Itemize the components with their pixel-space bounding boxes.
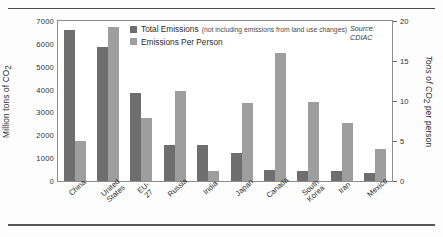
- y-axis-left: 01000200030004000500060007000: [20, 20, 57, 182]
- bar-total-emissions[interactable]: [264, 170, 275, 181]
- x-axis-tick: Japan: [225, 183, 258, 231]
- legend-label-total-emissions: Total Emissions: [141, 24, 199, 34]
- y-axis-right-tick-mark: [393, 101, 397, 102]
- bar-total-emissions[interactable]: [197, 145, 208, 181]
- bar-emissions-per-person[interactable]: [275, 53, 286, 181]
- bar-total-emissions[interactable]: [331, 171, 342, 181]
- bar-emissions-per-person[interactable]: [375, 149, 386, 181]
- y-axis-right-tick-label: 10: [400, 97, 408, 106]
- x-axis-tick: EU-27: [125, 183, 158, 231]
- figure-container: Million tons of CO2 Tons of CO2 per pers…: [0, 0, 443, 237]
- y-axis-left-tick-label: 7000: [36, 17, 54, 26]
- legend-item-total-emissions[interactable]: Total Emissions (not including emissions…: [130, 24, 347, 34]
- x-axis-tick: Mexico: [359, 183, 392, 231]
- bar-emissions-per-person[interactable]: [75, 141, 86, 181]
- y-axis-right-tick-label: 0: [400, 177, 404, 186]
- bar-total-emissions[interactable]: [64, 30, 75, 181]
- bar-total-emissions[interactable]: [364, 173, 375, 181]
- bar-total-emissions[interactable]: [231, 153, 242, 181]
- bar-emissions-per-person[interactable]: [242, 103, 253, 181]
- bar-total-emissions[interactable]: [164, 145, 175, 181]
- chart-legend: Total Emissions (not including emissions…: [130, 24, 347, 49]
- y-axis-right-tick-label: 5: [400, 137, 404, 146]
- legend-swatch-total-emissions: [130, 26, 137, 33]
- y-axis-right-tick-label: 20: [400, 17, 408, 26]
- bar-total-emissions[interactable]: [297, 171, 308, 181]
- y-axis-left-title-subscript: 2: [3, 65, 12, 70]
- legend-note-total-emissions: (not including emissions from land use c…: [202, 26, 347, 33]
- y-axis-right-tick-mark: [393, 61, 397, 62]
- bar-emissions-per-person[interactable]: [141, 118, 152, 181]
- y-axis-right-tick-mark: [393, 141, 397, 142]
- x-axis-tick: Russia: [158, 183, 191, 231]
- top-divider-rule: [8, 8, 435, 9]
- y-axis-left-tick-label: 3000: [36, 108, 54, 117]
- y-axis-left-tick-label: 2000: [36, 131, 54, 140]
- bar-emissions-per-person[interactable]: [308, 102, 319, 181]
- x-axis-tick: Iran: [325, 183, 358, 231]
- x-axis-tick-label: Iran: [337, 181, 352, 196]
- source-credit: Source: CDIAC: [350, 24, 375, 42]
- bar-emissions-per-person[interactable]: [108, 27, 119, 181]
- x-axis-tick: China: [58, 183, 91, 231]
- bar-group: [364, 21, 386, 181]
- y-axis-left-tick-label: 5000: [36, 62, 54, 71]
- y-axis-left-title: Million tons of CO2: [0, 20, 16, 182]
- x-axis-tick: India: [192, 183, 225, 231]
- bar-emissions-per-person[interactable]: [342, 123, 353, 181]
- x-axis-tick-label: South Korea: [301, 178, 327, 204]
- x-axis-tick-label: EU-27: [135, 179, 159, 203]
- legend-item-emissions-per-person[interactable]: Emissions Per Person: [130, 37, 347, 47]
- x-axis-labels: ChinaUnited StatesEU-27RussiaIndiaJapanC…: [58, 183, 392, 231]
- bar-total-emissions[interactable]: [130, 93, 141, 181]
- y-axis-right: 05101520: [393, 20, 427, 182]
- legend-label-emissions-per-person: Emissions Per Person: [141, 37, 223, 47]
- legend-swatch-emissions-per-person: [130, 38, 137, 45]
- y-axis-left-tick-label: 4000: [36, 85, 54, 94]
- x-axis-tick-label: India: [202, 179, 220, 196]
- bar-group: [97, 21, 119, 181]
- x-axis-tick: Canada: [258, 183, 291, 231]
- bar-group: [64, 21, 86, 181]
- y-axis-left-tick-label: 6000: [36, 39, 54, 48]
- bar-total-emissions[interactable]: [97, 47, 108, 181]
- y-axis-right-tick-label: 15: [400, 57, 408, 66]
- y-axis-left-tick-label: 1000: [36, 154, 54, 163]
- y-axis-right-tick-mark: [393, 21, 397, 22]
- y-axis-left-tick-label: 0: [50, 177, 54, 186]
- bar-emissions-per-person[interactable]: [175, 91, 186, 181]
- y-axis-left-title-text: Million tons of CO: [2, 69, 11, 137]
- y-axis-right-tick-mark: [393, 181, 397, 182]
- x-axis-tick: South Korea: [292, 183, 325, 231]
- x-axis-tick: United States: [91, 183, 124, 231]
